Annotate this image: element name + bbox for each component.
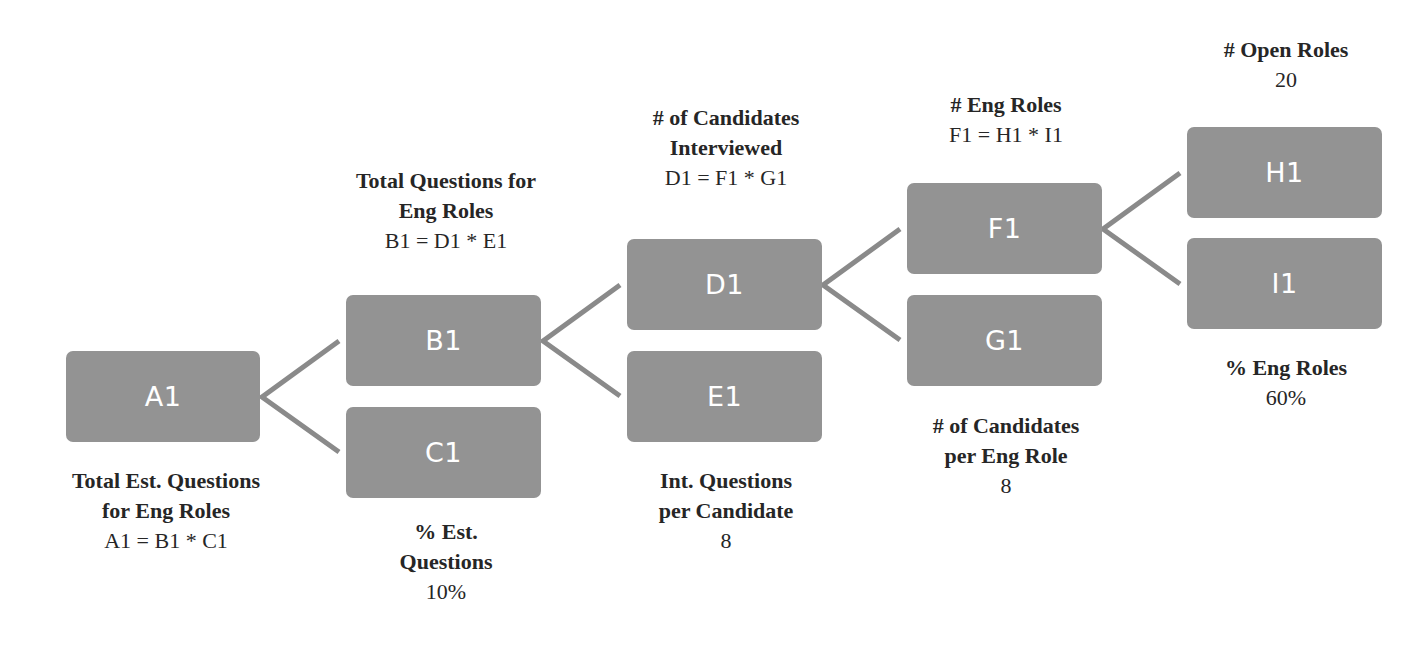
- node-a1: A1: [66, 351, 260, 442]
- label-f1: # Eng Roles F1 = H1 * I1: [860, 90, 1152, 150]
- label-g1-title-2: per Eng Role: [860, 441, 1152, 471]
- node-e1: E1: [627, 351, 822, 442]
- label-d1-title-1: # of Candidates: [580, 103, 872, 133]
- label-b1-title-1: Total Questions for: [300, 166, 592, 196]
- node-h1: H1: [1187, 127, 1382, 218]
- node-b1: B1: [346, 295, 541, 386]
- connector-b1-d1-e1: [543, 285, 620, 396]
- label-f1-title-1: # Eng Roles: [860, 90, 1152, 120]
- node-g1-id: G1: [985, 325, 1024, 356]
- label-i1-title-1: % Eng Roles: [1140, 353, 1425, 383]
- label-e1-title-2: per Candidate: [580, 496, 872, 526]
- node-d1-id: D1: [705, 269, 744, 300]
- node-h1-id: H1: [1265, 157, 1303, 188]
- driver-tree-diagram: A1 B1 C1 D1 E1 F1 G1 H1 I1 Total Est. Qu…: [0, 0, 1425, 648]
- node-i1-id: I1: [1271, 268, 1297, 299]
- connector-d1-f1-g1: [823, 229, 900, 340]
- label-f1-value: F1 = H1 * I1: [860, 120, 1152, 150]
- label-a1-value: A1 = B1 * C1: [20, 526, 312, 556]
- label-g1: # of Candidates per Eng Role 8: [860, 411, 1152, 501]
- node-e1-id: E1: [707, 381, 742, 412]
- connector-a1-b1-c1: [262, 341, 339, 452]
- node-a1-id: A1: [145, 381, 182, 412]
- label-c1-title-2: Questions: [300, 547, 592, 577]
- label-e1: Int. Questions per Candidate 8: [580, 466, 872, 556]
- node-f1-id: F1: [988, 213, 1022, 244]
- label-h1: # Open Roles 20: [1140, 35, 1425, 95]
- label-d1: # of Candidates Interviewed D1 = F1 * G1: [580, 103, 872, 193]
- label-i1-value: 60%: [1140, 383, 1425, 413]
- label-c1: % Est. Questions 10%: [300, 517, 592, 607]
- node-i1: I1: [1187, 238, 1382, 329]
- label-h1-title-1: # Open Roles: [1140, 35, 1425, 65]
- node-c1-id: C1: [425, 437, 462, 468]
- connector-f1-h1-i1: [1103, 173, 1180, 284]
- label-i1: % Eng Roles 60%: [1140, 353, 1425, 413]
- node-d1: D1: [627, 239, 822, 330]
- label-c1-value: 10%: [300, 577, 592, 607]
- node-f1: F1: [907, 183, 1102, 274]
- label-e1-value: 8: [580, 526, 872, 556]
- label-d1-value: D1 = F1 * G1: [580, 163, 872, 193]
- node-g1: G1: [907, 295, 1102, 386]
- label-d1-title-2: Interviewed: [580, 133, 872, 163]
- node-c1: C1: [346, 407, 541, 498]
- label-c1-title-1: % Est.: [300, 517, 592, 547]
- label-a1: Total Est. Questions for Eng Roles A1 = …: [20, 466, 312, 556]
- label-a1-title-2: for Eng Roles: [20, 496, 312, 526]
- label-h1-value: 20: [1140, 65, 1425, 95]
- label-g1-title-1: # of Candidates: [860, 411, 1152, 441]
- label-g1-value: 8: [860, 471, 1152, 501]
- label-b1: Total Questions for Eng Roles B1 = D1 * …: [300, 166, 592, 256]
- label-b1-title-2: Eng Roles: [300, 196, 592, 226]
- label-a1-title-1: Total Est. Questions: [20, 466, 312, 496]
- label-e1-title-1: Int. Questions: [580, 466, 872, 496]
- node-b1-id: B1: [425, 325, 462, 356]
- label-b1-value: B1 = D1 * E1: [300, 226, 592, 256]
